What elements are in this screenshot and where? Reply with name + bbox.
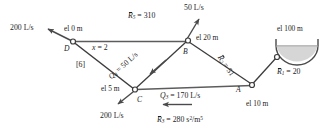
elevation-label-c: el 5 m <box>101 85 119 92</box>
node-marker-reservoir <box>275 55 280 60</box>
node-label-d: D <box>64 45 69 53</box>
node-marker-d <box>71 39 76 44</box>
node-marker-a <box>250 83 255 88</box>
resistance-label-r5: R5 = 310 <box>128 12 155 20</box>
node-marker-c <box>133 87 138 92</box>
flow-label-q3: Q3 = 170 L/s <box>160 92 200 100</box>
x-parameter-value: = 2 <box>95 43 107 52</box>
elevation-label-a: el 10 m <box>246 100 268 107</box>
resistance-value-r3: = 280 s <box>164 115 189 124</box>
flow-value-q3: = 170 L/s <box>168 91 200 100</box>
pipe-a-reservoir <box>252 58 276 85</box>
node-label-c: C <box>137 96 142 104</box>
node-marker-b <box>186 38 191 43</box>
resistance-symbol-r3: R <box>157 116 162 124</box>
resistance-unit-exp-2: 5 <box>200 115 203 121</box>
resistance-label-r1: R1 = 20 <box>277 68 301 76</box>
demand-label-d: 200 L/s <box>10 24 34 32</box>
resistance-value-r1: = 20 <box>284 67 300 76</box>
elevation-label-b: el 20 m <box>196 34 218 41</box>
x-parameter-label: x = 2 <box>92 44 108 52</box>
demand-label-c: 200 L/s <box>100 112 124 120</box>
pipe-c-a <box>136 86 252 90</box>
pipe-index-label-6: [6] <box>76 61 85 69</box>
pipe-network-figure: 200 L/s el 0 m D x = 2 R5 = 310 50 L/s e… <box>0 0 322 138</box>
demand-arrow-c <box>118 92 133 104</box>
resistance-label-r3: R3 = 280 s2/m5 <box>157 116 203 125</box>
reservoir-elevation-label: el 100 m <box>277 25 303 32</box>
node-label-a: A <box>236 86 241 94</box>
flow-arrow-q4 <box>150 60 166 74</box>
node-label-b: B <box>183 48 188 56</box>
resistance-value-r5: = 310 <box>135 11 155 20</box>
elevation-label-d: el 0 m <box>64 25 82 32</box>
demand-label-b: 50 L/s <box>184 4 204 12</box>
resistance-symbol-r5: R <box>128 12 133 20</box>
resistance-symbol-r1: R <box>277 68 282 76</box>
